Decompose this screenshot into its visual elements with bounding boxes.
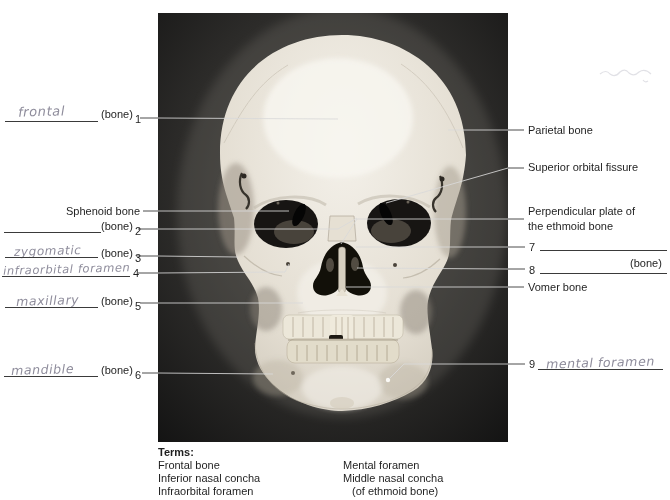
bone-suffix-2: (bone) <box>101 220 133 233</box>
terms-heading: Terms: <box>158 446 194 459</box>
bone-suffix-6: (bone) <box>101 364 133 377</box>
term-mental-foramen: Mental foramen <box>343 459 419 472</box>
label-number-1: 1 <box>135 113 141 126</box>
label-number-6: 6 <box>135 369 141 382</box>
bone-suffix-1: (bone) <box>101 108 133 121</box>
term-of-ethmoid-bone: (of ethmoid bone) <box>352 485 438 498</box>
label-number-5: 5 <box>135 300 141 313</box>
answer-blank-6 <box>4 376 98 377</box>
bone-suffix-5: (bone) <box>101 295 133 308</box>
label-sphenoid-bone: Sphenoid bone <box>66 205 140 218</box>
answer-blank-2 <box>4 232 101 233</box>
label-perpendicular-plate-line2: the ethmoid bone <box>528 220 613 233</box>
bone-suffix-8: (bone) <box>630 257 662 270</box>
label-number-9: 9 <box>529 358 535 371</box>
skull-illustration <box>158 13 508 442</box>
mental-foramen-right <box>386 378 390 382</box>
nasal-septum <box>339 247 346 293</box>
term-middle-nasal-concha: Middle nasal concha <box>343 472 443 485</box>
term-inferior-nasal-concha: Inferior nasal concha <box>158 472 260 485</box>
handwritten-answer-1: frontal <box>18 103 65 119</box>
skull-photo <box>158 13 508 442</box>
label-vomer-bone: Vomer bone <box>528 281 587 294</box>
infraorbital-foramen-left <box>286 262 290 266</box>
answer-blank-7 <box>540 250 667 251</box>
label-parietal-bone: Parietal bone <box>528 124 593 137</box>
label-number-3: 3 <box>135 252 141 265</box>
label-perpendicular-plate-line1: Perpendicular plate of <box>528 205 635 218</box>
label-superior-orbital-fissure: Superior orbital fissure <box>528 161 638 174</box>
answer-blank-8 <box>540 273 667 274</box>
term-infraorbital-foramen: Infraorbital foramen <box>158 485 253 498</box>
label-number-8: 8 <box>529 264 535 277</box>
faint-pencil-scribble <box>600 70 651 82</box>
infraorbital-foramen-right <box>393 263 397 267</box>
answer-blank-4 <box>2 276 130 277</box>
answer-blank-1 <box>5 121 98 122</box>
answer-blank-3 <box>5 257 98 258</box>
label-number-7: 7 <box>529 241 535 254</box>
teeth <box>283 315 403 363</box>
mental-foramen-left <box>291 371 295 375</box>
worksheet-page: frontal (bone) 1 Sphenoid bone (bone) 2 … <box>0 0 670 500</box>
bone-suffix-3: (bone) <box>101 247 133 260</box>
label-number-4: 4 <box>133 267 139 280</box>
answer-blank-9 <box>538 369 663 370</box>
term-frontal-bone: Frontal bone <box>158 459 220 472</box>
label-number-2: 2 <box>135 225 141 238</box>
answer-blank-5 <box>5 307 98 308</box>
